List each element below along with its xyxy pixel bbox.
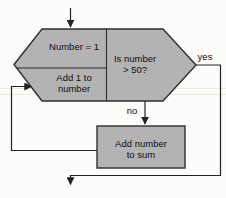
increment-label-line2: number: [58, 83, 90, 94]
increment-label-line1: Add 1 to: [56, 72, 91, 83]
flowchart-canvas: Number = 1 Add 1 to number Is number > 5…: [0, 0, 226, 198]
loop-hexagon-shape: [14, 29, 196, 101]
condition-label-line1: Is number: [114, 53, 156, 64]
process-label-line1: Add number: [115, 138, 167, 149]
yes-label: yes: [198, 51, 213, 62]
process-label-line2: to sum: [127, 149, 156, 160]
no-label: no: [127, 105, 138, 116]
condition-label-line2: > 50?: [123, 64, 147, 75]
init-label: Number = 1: [49, 41, 99, 52]
